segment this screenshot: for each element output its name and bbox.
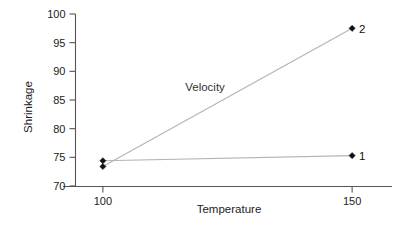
- series-lines-group: [103, 28, 352, 166]
- chart-canvas: 707580859095100 100150 12 Velocity Tempe…: [0, 0, 408, 225]
- x-tick-label: 150: [343, 195, 361, 207]
- y-tick-label: 90: [53, 65, 65, 77]
- series-marker: [100, 163, 106, 169]
- series-line: [103, 28, 352, 166]
- y-tick-label: 70: [53, 180, 65, 192]
- velocity-factor-annotation: Velocity: [185, 81, 225, 93]
- y-axis-tick-labels: 707580859095100: [47, 8, 65, 192]
- y-tick-label: 80: [53, 123, 65, 135]
- series-marker: [349, 153, 355, 159]
- series-marker: [349, 25, 355, 31]
- y-tick-label: 75: [53, 151, 65, 163]
- y-axis-ticks: [70, 14, 76, 186]
- y-tick-label: 85: [53, 94, 65, 106]
- series-end-label: 2: [359, 23, 365, 35]
- x-axis-ticks: [103, 187, 352, 193]
- series-line: [103, 156, 352, 161]
- x-axis-title: Temperature: [197, 203, 262, 215]
- x-tick-label: 100: [94, 195, 112, 207]
- series-marker: [100, 158, 106, 164]
- interaction-plot-figure: 707580859095100 100150 12 Velocity Tempe…: [0, 0, 408, 225]
- y-tick-label: 95: [53, 37, 65, 49]
- y-tick-label: 100: [47, 8, 65, 20]
- y-axis-title: Shrinkage: [22, 81, 34, 133]
- series-end-label: 1: [359, 150, 365, 162]
- annotations-group: Velocity: [185, 81, 225, 93]
- series-end-labels-group: 12: [359, 23, 365, 162]
